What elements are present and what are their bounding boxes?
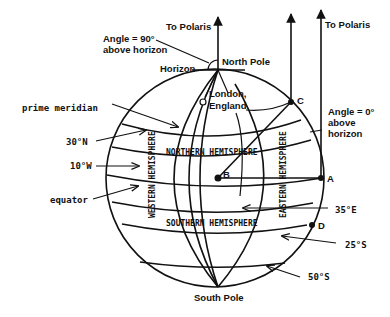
lat-30n-label: 30°N <box>66 137 88 147</box>
equator-line <box>107 175 322 186</box>
globe-diagram: C B A D London, England To Polaris To Po… <box>0 0 390 317</box>
point-a-label: A <box>327 173 334 184</box>
angle-90-label-2: above horizon <box>103 44 168 55</box>
point-c-label: C <box>297 95 304 106</box>
northern-hemisphere-label: NORTHERN HEMISPHERE <box>166 148 258 157</box>
lat-25s-label: 25°S <box>345 240 367 250</box>
angle-0-label-3: horizon <box>328 128 362 139</box>
prime-meridian-arrow <box>112 104 178 127</box>
lon-35e-label: 35°E <box>335 205 357 215</box>
point-d <box>309 222 315 228</box>
angle-0-label-1: Angle = 0° <box>328 106 374 117</box>
lat-30n-arrow <box>96 130 146 141</box>
prime-meridian-label: prime meridian <box>22 103 98 113</box>
angle-90-label-1: Angle = 90° <box>103 33 155 44</box>
lat-25s-arrow <box>282 236 336 243</box>
north-pole-label: North Pole <box>222 56 270 67</box>
to-polaris-right-label: To Polaris <box>325 19 370 30</box>
point-d-label: D <box>318 220 325 231</box>
equator-arrow <box>93 186 138 199</box>
lon-10w-label: 10°W <box>70 161 92 171</box>
angle-0-label-2: above <box>328 117 355 128</box>
point-a <box>318 175 324 181</box>
equator-label: equator <box>50 195 89 205</box>
london-label-1: London, <box>209 88 246 99</box>
london-marker <box>200 99 206 105</box>
south-pole-label: South Pole <box>194 292 244 303</box>
southern-hemisphere-label: SOUTHERN HEMISPHERE <box>166 219 258 228</box>
lat-50s-label: 50°S <box>308 272 330 282</box>
to-polaris-left-label: To Polaris <box>166 21 211 32</box>
eastern-hemisphere-label: EASTERN HEMISPHERE <box>279 131 288 218</box>
western-hemisphere-label: WESTERN HEMISPHERE <box>148 131 157 218</box>
london-label-2: England <box>209 100 247 111</box>
horizon-label: Horizon <box>160 63 196 74</box>
